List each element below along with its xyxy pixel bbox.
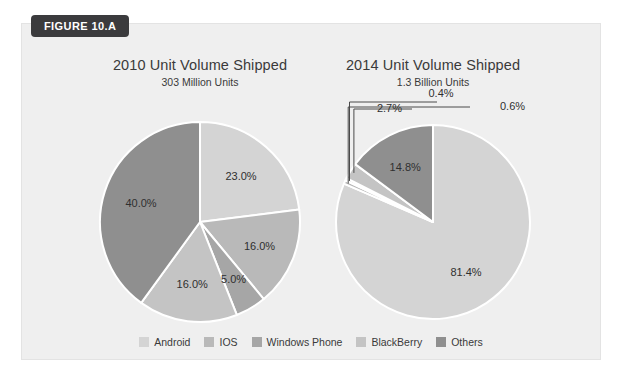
chart-title-right: 2014 Unit Volume Shipped 1.3 Billion Uni… — [333, 56, 533, 90]
figure-tag: FIGURE 10.A — [31, 15, 129, 37]
legend-item-windows-phone[interactable]: Windows Phone — [252, 336, 343, 348]
chart-title-left-sub: 303 Million Units — [100, 75, 300, 90]
chart-title-right-main: 2014 Unit Volume Shipped — [333, 56, 533, 74]
legend-item-label: Android — [154, 336, 190, 348]
legend-swatch-icon — [139, 337, 149, 347]
legend-item-others[interactable]: Others — [436, 336, 483, 348]
legend-item-ios[interactable]: IOS — [204, 336, 237, 348]
figure-root: FIGURE 10.A 2010 Unit Volume Shipped 303… — [0, 0, 622, 379]
legend-item-label: Others — [451, 336, 483, 348]
legend-swatch-icon — [252, 337, 262, 347]
legend-item-label: Windows Phone — [267, 336, 343, 348]
legend-swatch-icon — [436, 337, 446, 347]
chart-title-left: 2010 Unit Volume Shipped 303 Million Uni… — [100, 56, 300, 90]
chart-title-left-main: 2010 Unit Volume Shipped — [100, 56, 300, 74]
legend-swatch-icon — [356, 337, 366, 347]
chart-title-right-sub: 1.3 Billion Units — [333, 75, 533, 90]
legend-item-android[interactable]: Android — [139, 336, 190, 348]
legend-item-label: BlackBerry — [371, 336, 422, 348]
legend-item-label: IOS — [219, 336, 237, 348]
legend-item-blackberry[interactable]: BlackBerry — [356, 336, 422, 348]
chart-legend: AndroidIOSWindows PhoneBlackBerryOthers — [0, 336, 622, 348]
legend-swatch-icon — [204, 337, 214, 347]
